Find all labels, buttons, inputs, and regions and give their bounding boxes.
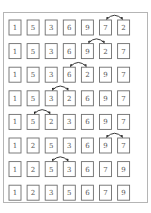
value-label: 3 — [49, 71, 53, 79]
value-label: 6 — [85, 95, 90, 103]
sort-row: 1536927 — [9, 39, 130, 59]
value-box: 1 — [9, 91, 21, 106]
value-label: 9 — [103, 142, 107, 150]
sort-row: 1532697 — [9, 86, 130, 106]
value-label: 7 — [103, 166, 107, 174]
value-box: 1 — [9, 20, 21, 35]
value-label: 7 — [121, 48, 125, 56]
value-box: 2 — [27, 185, 39, 200]
swap-arrow — [52, 86, 68, 90]
value-box: 5 — [45, 162, 57, 177]
value-label: 2 — [67, 95, 71, 103]
value-label: 1 — [13, 95, 17, 103]
swap-arrow — [107, 133, 123, 137]
value-box: 3 — [45, 67, 57, 82]
value-label: 6 — [67, 24, 72, 32]
value-box: 5 — [63, 185, 75, 200]
value-label: 7 — [121, 95, 125, 103]
value-box: 9 — [118, 162, 130, 177]
value-label: 9 — [103, 95, 107, 103]
value-box: 7 — [118, 44, 130, 59]
value-label: 2 — [49, 118, 53, 126]
value-box: 1 — [9, 44, 21, 59]
value-label: 1 — [13, 24, 17, 32]
value-box: 6 — [63, 67, 75, 82]
value-box: 3 — [45, 44, 57, 59]
value-box: 5 — [27, 67, 39, 82]
value-label: 9 — [121, 189, 125, 197]
value-label: 7 — [121, 71, 125, 79]
value-label: 2 — [85, 71, 89, 79]
value-label: 5 — [31, 95, 35, 103]
value-label: 7 — [121, 142, 125, 150]
value-label: 2 — [31, 142, 35, 150]
value-box: 1 — [9, 138, 21, 153]
swap-arrow — [107, 15, 123, 19]
value-box: 5 — [27, 20, 39, 35]
value-box: 9 — [100, 67, 112, 82]
value-label: 7 — [121, 118, 125, 126]
value-box: 2 — [118, 20, 130, 35]
value-box: 9 — [100, 91, 112, 106]
value-label: 1 — [13, 189, 17, 197]
value-label: 7 — [103, 24, 107, 32]
value-box: 7 — [100, 185, 112, 200]
value-label: 9 — [121, 166, 125, 174]
value-box: 2 — [100, 44, 112, 59]
value-box: 7 — [118, 138, 130, 153]
value-box: 9 — [100, 138, 112, 153]
value-box: 6 — [81, 91, 93, 106]
value-label: 2 — [121, 24, 125, 32]
value-label: 7 — [103, 189, 107, 197]
value-label: 5 — [31, 71, 35, 79]
value-box: 7 — [118, 67, 130, 82]
value-label: 6 — [85, 142, 90, 150]
value-label: 5 — [31, 48, 35, 56]
value-label: 3 — [49, 189, 53, 197]
value-label: 1 — [13, 118, 17, 126]
value-label: 3 — [49, 48, 53, 56]
value-label: 5 — [31, 24, 35, 32]
value-label: 2 — [31, 189, 35, 197]
swap-arrow — [70, 62, 86, 66]
value-label: 3 — [67, 118, 71, 126]
value-label: 5 — [49, 142, 53, 150]
value-box: 6 — [63, 20, 75, 35]
swap-arrow — [34, 110, 50, 114]
value-label: 3 — [67, 166, 71, 174]
value-label: 5 — [67, 189, 71, 197]
value-box: 7 — [118, 91, 130, 106]
sort-steps-diagram: 1536972153692715362971532697152369712536… — [0, 0, 151, 213]
value-label: 9 — [85, 48, 89, 56]
sort-row: 1253697 — [9, 133, 130, 153]
sort-row: 1536297 — [9, 62, 130, 82]
value-box: 2 — [45, 114, 57, 129]
value-label: 3 — [49, 95, 53, 103]
value-label: 5 — [31, 118, 35, 126]
value-box: 1 — [9, 162, 21, 177]
value-box: 5 — [27, 114, 39, 129]
sort-row: 1523697 — [9, 110, 130, 130]
value-box: 6 — [81, 138, 93, 153]
value-box: 1 — [9, 114, 21, 129]
value-label: 9 — [85, 24, 89, 32]
value-box: 9 — [81, 44, 93, 59]
value-label: 6 — [67, 48, 72, 56]
value-box: 7 — [100, 20, 112, 35]
value-label: 9 — [103, 71, 107, 79]
sort-row: 1253679 — [9, 157, 130, 177]
value-box: 7 — [100, 162, 112, 177]
value-box: 6 — [81, 114, 93, 129]
value-box: 2 — [27, 138, 39, 153]
sort-row: 1235679 — [9, 185, 130, 200]
value-box: 9 — [118, 185, 130, 200]
value-label: 3 — [67, 142, 71, 150]
value-label: 6 — [85, 118, 90, 126]
sort-row: 1536972 — [9, 15, 130, 35]
value-box: 6 — [81, 185, 93, 200]
value-label: 6 — [85, 166, 90, 174]
value-box: 3 — [45, 20, 57, 35]
value-box: 5 — [27, 44, 39, 59]
value-box: 3 — [63, 138, 75, 153]
value-label: 1 — [13, 48, 17, 56]
